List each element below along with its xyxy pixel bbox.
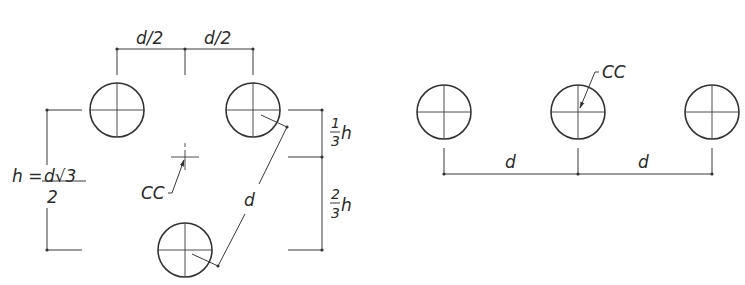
spacing-dimension: d d [442,148,713,176]
conductor-circle-left [417,85,471,139]
centroid-leader: CC [141,160,184,203]
centroid-label: CC [141,183,165,203]
fraction-dimension: 1 3 h 2 3 h [288,108,352,251]
height-formula-lhs: h = [12,166,42,186]
right-diagram: CC d d [417,62,739,176]
left-diagram: d/2 d/2 CC [12,28,352,277]
height-formula-numerator: d√3 [44,166,76,186]
centroid-label-right: CC [602,62,626,82]
diagonal-dimension: d [192,115,289,268]
one-third-num: 1 [331,115,340,131]
height-dimension: h = d√3 2 [12,108,86,251]
top-dimension: d/2 d/2 [115,28,254,75]
conductor-circle-right [685,85,739,139]
dim-label-half-left: d/2 [136,28,163,48]
one-third-var: h [341,123,352,143]
spacing-label-left: d [505,152,516,172]
conductor-circle-top-left [90,83,144,137]
spacing-label-right: d [638,152,649,172]
conductor-circle-bottom [158,223,212,277]
height-formula-denominator: 2 [47,187,58,207]
conductor-circle-center [551,85,605,139]
dim-label-half-right: d/2 [204,28,231,48]
centroid-cross [171,150,199,170]
two-thirds-den: 3 [331,205,340,221]
one-third-den: 3 [331,133,340,149]
conductor-circle-top-right [226,83,280,137]
cable-arrangement-diagram: d/2 d/2 CC [0,0,745,285]
two-thirds-var: h [341,195,352,215]
two-thirds-num: 2 [331,186,340,202]
diagonal-label: d [244,190,255,210]
